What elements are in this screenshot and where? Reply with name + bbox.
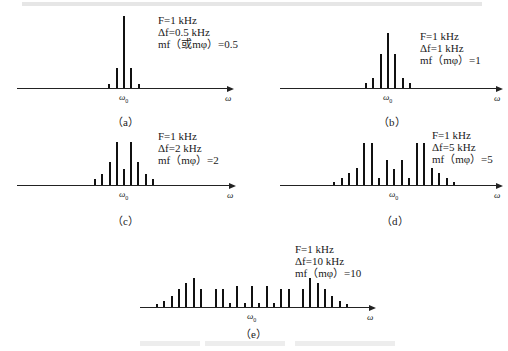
frequency-axis <box>280 88 497 89</box>
spectral-line <box>137 162 139 185</box>
spectral-line <box>333 182 335 185</box>
axis-arrow-icon <box>227 86 234 92</box>
spectral-line <box>317 283 319 307</box>
param-df: Δf=1 kHz <box>420 42 481 54</box>
carrier-frequency-label: ω0 <box>247 312 256 323</box>
axis-arrow-icon <box>496 86 503 92</box>
spectral-line <box>402 78 404 88</box>
spectral-line <box>324 289 326 307</box>
frequency-axis <box>140 307 370 308</box>
spectral-line <box>229 303 231 307</box>
caption-text-bar <box>205 341 285 346</box>
spectral-line <box>416 143 418 185</box>
spectral-line <box>371 143 373 185</box>
param-m: mf（mφ）=1 <box>420 54 481 66</box>
param-m: mf（mφ）=5 <box>432 153 493 165</box>
spectral-line <box>171 296 173 307</box>
spectral-line <box>163 301 165 307</box>
param-F: F=1 kHz <box>158 14 238 26</box>
spectral-line <box>431 168 433 185</box>
spectral-line <box>215 289 217 307</box>
spectral-line <box>280 289 282 307</box>
spectral-line <box>288 289 290 307</box>
spectral-line <box>309 278 311 307</box>
spectral-line <box>394 54 396 88</box>
panel-label: （d） <box>381 212 409 228</box>
axis-arrow-icon <box>229 183 236 189</box>
spectral-line <box>130 142 132 185</box>
modulation-parameters: F=1 kHzΔf=1 kHzmf（mφ）=1 <box>420 30 481 66</box>
spectral-line <box>378 178 380 185</box>
param-m: mf（mφ）=10 <box>295 267 361 279</box>
axis-arrow-icon <box>496 183 503 189</box>
spectral-line <box>273 303 275 307</box>
spectral-line <box>138 84 140 88</box>
frequency-axis-label: ω <box>494 94 500 103</box>
param-m: mf（或mφ）=0.5 <box>158 38 238 50</box>
param-F: F=1 kHz <box>420 30 481 42</box>
modulation-parameters: F=1 kHzΔf=0.5 kHzmf（或mφ）=0.5 <box>158 14 238 50</box>
spectral-line <box>123 16 125 88</box>
param-df: Δf=2 kHz <box>158 142 219 154</box>
spectral-line <box>372 78 374 88</box>
spectral-line <box>101 174 103 185</box>
spectral-line <box>356 168 358 185</box>
modulation-parameters: F=1 kHzΔf=10 kHzmf（mφ）=10 <box>295 243 361 279</box>
param-df: Δf=10 kHz <box>295 255 361 267</box>
spectral-line <box>236 286 238 307</box>
param-F: F=1 kHz <box>432 129 493 141</box>
spectral-line <box>222 289 224 307</box>
spectral-line <box>156 304 158 307</box>
panel-label: （b） <box>378 113 406 129</box>
spectral-line <box>408 178 410 185</box>
param-df: Δf=0.5 kHz <box>158 26 238 38</box>
spectral-line <box>401 160 403 185</box>
spectral-line <box>200 289 202 307</box>
spectral-line <box>438 173 440 185</box>
modulation-parameters: F=1 kHzΔf=5 kHzmf（mφ）=5 <box>432 129 493 165</box>
spectral-line <box>380 54 382 88</box>
carrier-frequency-label: ω0 <box>119 93 128 104</box>
spectral-line <box>193 278 195 307</box>
panel-label: （c） <box>112 212 139 228</box>
spectral-line <box>185 283 187 307</box>
spectral-line <box>145 174 147 185</box>
spectral-line <box>393 169 395 185</box>
axis-arrow-icon <box>369 305 376 311</box>
modulation-parameters: F=1 kHzΔf=2 kHzmf（mφ）=2 <box>158 130 219 166</box>
spectral-line <box>109 162 111 185</box>
spectral-line <box>387 33 389 88</box>
caption-text-bar-2 <box>295 341 395 346</box>
spectral-line <box>258 303 260 307</box>
spectral-line <box>130 68 132 88</box>
spectral-line <box>409 83 411 88</box>
spectral-line <box>341 178 343 185</box>
panel-label: （e） <box>240 325 267 341</box>
carrier-frequency-label: ω0 <box>383 93 392 104</box>
spectral-line <box>302 289 304 307</box>
spectral-line <box>152 179 154 185</box>
spectral-line <box>251 286 253 307</box>
spectral-line <box>346 304 348 307</box>
param-F: F=1 kHz <box>295 243 361 255</box>
frequency-axis <box>280 185 497 186</box>
caption-number-bar <box>140 341 200 346</box>
spectral-line <box>365 83 367 88</box>
frequency-axis-label: ω <box>494 191 500 200</box>
spectral-line <box>348 173 350 185</box>
frequency-axis <box>17 88 228 89</box>
spectral-line <box>116 142 118 185</box>
spectral-line <box>178 289 180 307</box>
spectral-line <box>108 84 110 88</box>
frequency-axis <box>17 185 230 186</box>
frequency-axis-label: ω <box>367 313 373 322</box>
spectral-line <box>94 179 96 185</box>
spectral-line <box>266 286 268 307</box>
spectral-line <box>339 301 341 307</box>
spectral-line <box>363 143 365 185</box>
carrier-frequency-label: ω0 <box>119 190 128 201</box>
param-F: F=1 kHz <box>158 130 219 142</box>
header-text-bar <box>22 2 482 6</box>
param-df: Δf=5 kHz <box>432 141 493 153</box>
spectral-line <box>244 303 246 307</box>
